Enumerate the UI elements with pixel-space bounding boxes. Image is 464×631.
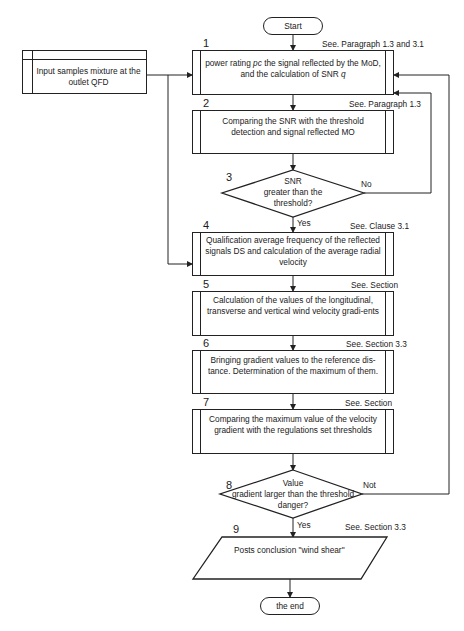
- step-number-7: 7: [203, 396, 209, 408]
- end-label: the end: [276, 601, 304, 611]
- step-number-2: 2: [203, 97, 209, 109]
- step-number-5: 5: [203, 278, 209, 290]
- output-text-9: Posts conclusion "wind shear": [234, 545, 345, 555]
- decision-yes-label-8: Yes: [297, 520, 311, 530]
- process-box-2: Comparing the SNR with the threshold det…: [192, 110, 394, 154]
- end-terminal: the end: [260, 597, 320, 615]
- step-ref-7: See. Section: [345, 398, 392, 408]
- input-samples-text: Input samples mixture at the outlet QFD: [35, 66, 142, 88]
- decision-text-3: SNR greater than the threshold?: [240, 176, 346, 209]
- decision-yes-label-3: Yes: [297, 218, 311, 228]
- step-ref-4: See. Clause 3.1: [350, 221, 409, 231]
- decision-text-8: Value gradient larger than the threshold…: [225, 478, 361, 511]
- process-box-4: Qualification average frequency of the r…: [192, 232, 394, 276]
- step-ref-5: See. Section: [351, 280, 398, 290]
- decision-no-label-3: No: [361, 179, 372, 189]
- process-text-7: Comparing the maximum value of the veloc…: [205, 414, 381, 436]
- output-parallelogram-9: [193, 537, 387, 579]
- divider: [32, 51, 33, 93]
- step-ref-2: See. Paragraph 1.3: [349, 99, 421, 109]
- start-terminal: Start: [263, 17, 323, 35]
- process-box-5: Calculation of the values of the longitu…: [192, 291, 394, 336]
- process-box-6: Bringing gradient values to the referenc…: [192, 350, 394, 394]
- process-text-5: Calculation of the values of the longitu…: [205, 295, 381, 317]
- process-text-1: power rating pc the signal reflected by …: [205, 58, 381, 80]
- input-samples-box: Input samples mixture at the outlet QFD: [22, 50, 147, 94]
- step-number-9: 9: [233, 523, 239, 535]
- process-box-1: power rating pc the signal reflected by …: [192, 50, 394, 95]
- step-number-1: 1: [203, 37, 209, 49]
- divider: [23, 59, 146, 60]
- step-number-3: 3: [226, 171, 232, 183]
- process-text-6: Bringing gradient values to the referenc…: [205, 355, 381, 377]
- process-box-7: Comparing the maximum value of the veloc…: [192, 409, 394, 454]
- step-number-4: 4: [203, 219, 209, 231]
- step-number-6: 6: [203, 337, 209, 349]
- process-text-4: Qualification average frequency of the r…: [205, 235, 381, 268]
- process-text-2: Comparing the SNR with the threshold det…: [205, 116, 381, 138]
- step-ref-9: See. Section 3.3: [345, 522, 406, 532]
- decision-no-label-8: Not: [363, 480, 376, 490]
- step-ref-1: See. Paragraph 1.3 and 3.1: [322, 39, 424, 49]
- step-ref-6: See. Section 3.3: [346, 339, 407, 349]
- start-label: Start: [284, 21, 302, 31]
